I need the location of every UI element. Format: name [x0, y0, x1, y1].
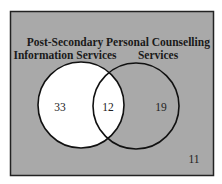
count-both: 12 — [102, 101, 114, 113]
label-post-secondary-line1: Post-Secondary — [27, 36, 104, 49]
label-personal-counselling-line1: Personal Counselling — [106, 36, 210, 49]
count-only-personal-counselling: 19 — [155, 101, 167, 113]
count-only-post-secondary: 33 — [54, 101, 66, 113]
label-personal-counselling-line2: Services — [138, 49, 179, 61]
label-post-secondary-line2: Information Services — [13, 49, 117, 61]
count-neither: 11 — [188, 153, 199, 165]
venn-diagram: Post-Secondary Information Services Pers… — [0, 0, 222, 184]
